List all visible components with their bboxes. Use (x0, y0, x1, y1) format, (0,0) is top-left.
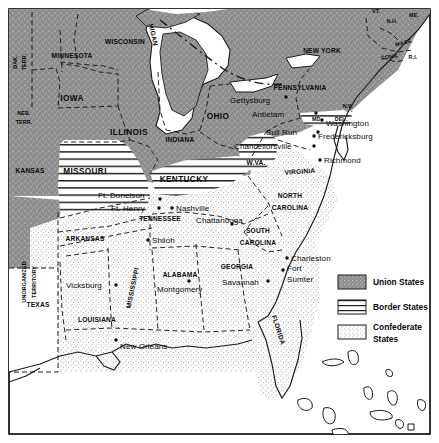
state-label-kentucky: KENTUCKY (160, 175, 209, 184)
city-dot-antietam (314, 111, 317, 114)
city-dot-new-orleans (114, 338, 117, 341)
state-label-kansas: KANSAS (15, 167, 44, 174)
city-label-vicksburg: Vicksburg (66, 281, 102, 290)
state-label-louisiana: LOUISIANA (78, 316, 116, 323)
city-label-fort-sumter-line1: Fort (287, 264, 302, 273)
city-dot-charleston (285, 256, 288, 259)
city-dot-chancellorsville (312, 144, 315, 147)
legend-label-confederate-line1: Confederate (373, 322, 422, 332)
state-label-south-carolina-line2: CAROLINA (240, 239, 276, 246)
state-label-rhode-island: R.I. (409, 54, 418, 60)
territory-label-nebraska-line2: TERR. (16, 119, 33, 125)
state-label-tennessee: TENNESSEE (139, 215, 181, 222)
city-label-antietam: Antietam (252, 110, 285, 119)
state-label-iowa: IOWA (60, 94, 83, 103)
state-label-illinois: ILLINOIS (110, 128, 148, 137)
city-dot-washington (320, 118, 323, 121)
state-label-texas: TEXAS (27, 301, 50, 308)
legend-swatch-union (338, 275, 366, 289)
city-label-shiloh: Shiloh (152, 236, 175, 245)
state-label-georgia: GEORGIA (221, 263, 254, 270)
state-label-missouri: MISSOURI (63, 167, 107, 176)
map-svg: DAK. TERR. NEB. TERR. UNORGANIZED TERRIT… (0, 0, 439, 443)
city-dot-richmond (318, 158, 321, 161)
state-label-indiana: INDIANA (166, 136, 195, 143)
state-label-west-virginia: W.VA. (246, 159, 265, 166)
city-dot-shiloh (146, 238, 149, 241)
legend-label-confederate-line2: States (373, 334, 398, 344)
city-label-richmond: Richmond (324, 156, 361, 165)
city-dot-nashville (170, 206, 173, 209)
city-dot-savannah (266, 279, 269, 282)
city-label-chattanooga: Chattanooga (196, 216, 243, 225)
city-dot-fredericksburg (312, 134, 315, 137)
city-dot-ft-henry (157, 206, 160, 209)
state-label-wisconsin: WISCONSIN (105, 38, 145, 45)
territory-label-nebraska-line1: NEB. (17, 110, 31, 116)
state-label-maine: ME. (409, 12, 419, 18)
territory-label-dakota-line1: DAK. (12, 55, 18, 69)
city-label-chancellorsville: Chancellorsville (234, 142, 292, 151)
legend-label-border: Border States (373, 302, 428, 312)
state-label-new-hampshire: N.H. (386, 18, 398, 24)
city-label-montgomery: Montgomery (157, 285, 202, 294)
civil-war-map: DAK. TERR. NEB. TERR. UNORGANIZED TERRIT… (0, 0, 439, 443)
legend-swatch-border (338, 300, 366, 314)
state-label-vermont: VT. (372, 8, 380, 14)
city-dot-montgomery (187, 279, 190, 282)
territory-label-unorganized-line2: TERRITORY (31, 266, 37, 298)
state-label-north-carolina-line2: CAROLINA (272, 204, 308, 211)
city-label-nashville: Nashville (176, 204, 210, 213)
city-label-ft-donelson: Ft. Donelson (98, 191, 145, 200)
city-label-savannah: Savannah (222, 278, 259, 287)
city-label-bull-run: Bull Run (266, 128, 297, 137)
state-label-arkansas: ARKANSAS (66, 235, 105, 242)
state-label-north-carolina-line1: NORTH (278, 192, 302, 199)
city-dot-ft-donelson (158, 197, 161, 200)
territory-label-unorganized-line1: UNORGANIZED (21, 261, 27, 302)
city-label-fort-sumter-line2: Sumter (287, 275, 314, 284)
state-label-ohio: OHIO (207, 112, 230, 121)
state-label-minnesota: MINNESOTA (52, 52, 93, 59)
city-dot-fort-sumter (281, 268, 284, 271)
state-label-alabama: ALABAMA (163, 271, 198, 278)
city-label-gettysburg: Gettysburg (230, 96, 270, 105)
state-label-new-york: NEW YORK (303, 47, 341, 54)
legend-swatch-confederate (338, 325, 366, 339)
city-dot-vicksburg (114, 283, 117, 286)
state-label-pennsylvania: PENNSYLVANIA (273, 84, 326, 91)
city-label-washington: Washington (326, 119, 369, 128)
city-dot-gettysburg (284, 95, 287, 98)
state-label-new-jersey: N.J. (343, 103, 354, 109)
city-label-fredericksburg: Fredericksburg (318, 132, 373, 141)
territory-label-dakota-line2: TERR. (21, 53, 27, 70)
legend-label-union: Union States (373, 277, 425, 287)
state-label-south-carolina-line1: SOUTH (246, 227, 270, 234)
city-label-charleston: Charleston (291, 254, 331, 263)
city-label-ft-henry: Ft. Henry (111, 204, 145, 213)
city-label-new-orleans: New Orleans (120, 342, 167, 351)
